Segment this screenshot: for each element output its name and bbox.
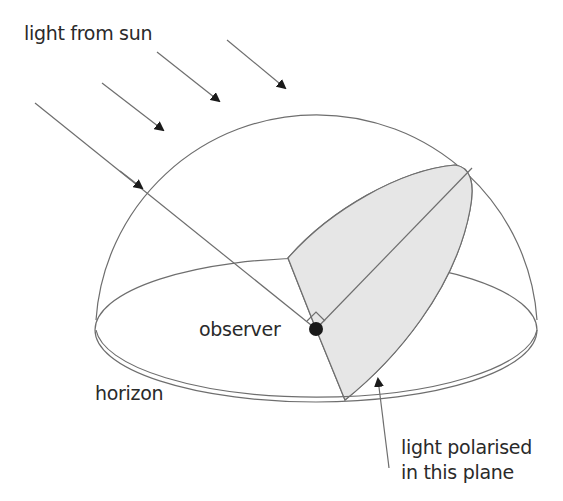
- sky-polarisation-diagram: [0, 0, 563, 501]
- sun-ray-2: [102, 83, 163, 130]
- sun-ray-1-arrow: [120, 171, 142, 188]
- sun-ray-3: [157, 52, 219, 101]
- sun-ray-to-observer: [35, 103, 316, 329]
- plane-pointer-arrow: [378, 379, 389, 468]
- observer-dot: [309, 322, 323, 336]
- sun-ray-4: [227, 40, 285, 88]
- label-observer: observer: [199, 318, 280, 340]
- polarisation-plane-front: [288, 165, 472, 400]
- label-plane-line2: in this plane: [401, 461, 514, 483]
- label-light-from-sun: light from sun: [24, 22, 152, 44]
- label-horizon: horizon: [95, 382, 163, 404]
- label-plane-line1: light polarised: [401, 436, 532, 458]
